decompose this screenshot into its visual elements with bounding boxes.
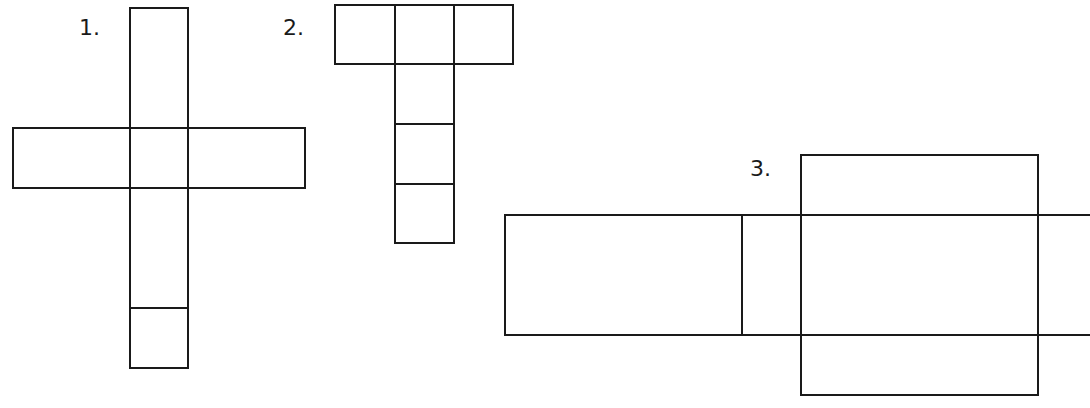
nets-drawing xyxy=(0,0,1090,408)
figure-1-label: 1. xyxy=(79,17,100,39)
figure-3-label: 3. xyxy=(750,158,771,180)
figure-2-label: 2. xyxy=(283,17,304,39)
figure-2-net xyxy=(335,5,513,243)
figure-1-net xyxy=(13,8,305,368)
figure-3-net xyxy=(505,155,1090,395)
